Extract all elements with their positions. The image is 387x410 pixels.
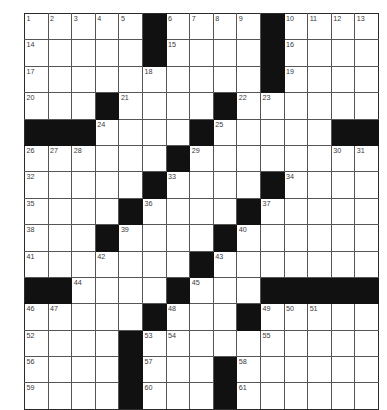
crossword-cell[interactable]: 59 <box>25 383 49 409</box>
crossword-cell[interactable] <box>331 172 355 198</box>
crossword-cell[interactable] <box>308 251 332 277</box>
crossword-cell[interactable] <box>95 277 119 303</box>
crossword-cell[interactable] <box>190 357 214 383</box>
crossword-cell[interactable] <box>48 93 72 119</box>
crossword-cell[interactable]: 33 <box>166 172 190 198</box>
crossword-cell[interactable] <box>308 40 332 66</box>
crossword-cell[interactable] <box>237 66 261 92</box>
crossword-cell[interactable] <box>355 225 379 251</box>
crossword-cell[interactable] <box>166 383 190 409</box>
crossword-cell[interactable] <box>166 119 190 145</box>
crossword-cell[interactable]: 2 <box>48 14 72 40</box>
crossword-cell[interactable]: 29 <box>190 145 214 171</box>
crossword-cell[interactable] <box>308 119 332 145</box>
crossword-cell[interactable] <box>355 304 379 330</box>
crossword-cell[interactable] <box>119 66 143 92</box>
crossword-cell[interactable] <box>284 119 308 145</box>
crossword-cell[interactable] <box>355 330 379 356</box>
crossword-cell[interactable]: 16 <box>284 40 308 66</box>
crossword-cell[interactable] <box>355 40 379 66</box>
crossword-cell[interactable] <box>213 304 237 330</box>
crossword-cell[interactable]: 54 <box>166 330 190 356</box>
crossword-cell[interactable]: 61 <box>237 383 261 409</box>
crossword-cell[interactable] <box>142 225 166 251</box>
crossword-cell[interactable]: 21 <box>119 93 143 119</box>
crossword-cell[interactable] <box>119 119 143 145</box>
crossword-cell[interactable] <box>308 66 332 92</box>
crossword-cell[interactable] <box>48 251 72 277</box>
crossword-cell[interactable]: 14 <box>25 40 49 66</box>
crossword-cell[interactable] <box>72 172 96 198</box>
crossword-cell[interactable] <box>119 172 143 198</box>
crossword-cell[interactable] <box>308 357 332 383</box>
crossword-cell[interactable]: 39 <box>119 225 143 251</box>
crossword-cell[interactable] <box>95 198 119 224</box>
crossword-cell[interactable] <box>72 383 96 409</box>
crossword-cell[interactable] <box>331 66 355 92</box>
crossword-cell[interactable]: 38 <box>25 225 49 251</box>
crossword-cell[interactable] <box>213 172 237 198</box>
crossword-cell[interactable] <box>260 119 284 145</box>
crossword-cell[interactable] <box>48 225 72 251</box>
crossword-cell[interactable] <box>284 251 308 277</box>
crossword-cell[interactable]: 31 <box>355 145 379 171</box>
crossword-cell[interactable] <box>284 383 308 409</box>
crossword-cell[interactable]: 34 <box>284 172 308 198</box>
crossword-cell[interactable]: 50 <box>284 304 308 330</box>
crossword-cell[interactable] <box>119 145 143 171</box>
crossword-cell[interactable]: 9 <box>237 14 261 40</box>
crossword-cell[interactable] <box>237 251 261 277</box>
crossword-cell[interactable]: 60 <box>142 383 166 409</box>
crossword-cell[interactable] <box>48 330 72 356</box>
crossword-cell[interactable] <box>119 251 143 277</box>
crossword-cell[interactable] <box>213 198 237 224</box>
crossword-cell[interactable]: 11 <box>308 14 332 40</box>
crossword-cell[interactable] <box>284 93 308 119</box>
crossword-cell[interactable]: 18 <box>142 66 166 92</box>
crossword-cell[interactable] <box>355 383 379 409</box>
crossword-cell[interactable]: 45 <box>190 277 214 303</box>
crossword-cell[interactable] <box>260 383 284 409</box>
crossword-cell[interactable] <box>190 330 214 356</box>
crossword-cell[interactable]: 41 <box>25 251 49 277</box>
crossword-cell[interactable] <box>48 357 72 383</box>
crossword-cell[interactable] <box>72 225 96 251</box>
crossword-cell[interactable] <box>190 40 214 66</box>
crossword-cell[interactable] <box>48 40 72 66</box>
crossword-cell[interactable] <box>331 40 355 66</box>
crossword-cell[interactable] <box>331 198 355 224</box>
crossword-cell[interactable] <box>308 93 332 119</box>
crossword-cell[interactable]: 55 <box>260 330 284 356</box>
crossword-cell[interactable] <box>237 172 261 198</box>
crossword-cell[interactable]: 15 <box>166 40 190 66</box>
crossword-cell[interactable] <box>119 277 143 303</box>
crossword-cell[interactable] <box>190 172 214 198</box>
crossword-cell[interactable]: 35 <box>25 198 49 224</box>
crossword-cell[interactable]: 26 <box>25 145 49 171</box>
crossword-cell[interactable]: 7 <box>190 14 214 40</box>
crossword-cell[interactable] <box>48 66 72 92</box>
crossword-cell[interactable] <box>142 251 166 277</box>
crossword-cell[interactable]: 46 <box>25 304 49 330</box>
crossword-cell[interactable]: 58 <box>237 357 261 383</box>
crossword-cell[interactable]: 6 <box>166 14 190 40</box>
crossword-cell[interactable] <box>72 251 96 277</box>
crossword-cell[interactable] <box>237 40 261 66</box>
crossword-cell[interactable] <box>95 383 119 409</box>
crossword-cell[interactable]: 27 <box>48 145 72 171</box>
crossword-cell[interactable] <box>260 145 284 171</box>
crossword-cell[interactable]: 10 <box>284 14 308 40</box>
crossword-cell[interactable] <box>72 93 96 119</box>
crossword-cell[interactable] <box>331 357 355 383</box>
crossword-cell[interactable] <box>72 198 96 224</box>
crossword-cell[interactable]: 24 <box>95 119 119 145</box>
crossword-cell[interactable] <box>72 304 96 330</box>
crossword-cell[interactable] <box>142 93 166 119</box>
crossword-cell[interactable] <box>213 277 237 303</box>
crossword-cell[interactable] <box>355 93 379 119</box>
crossword-cell[interactable] <box>213 66 237 92</box>
crossword-cell[interactable]: 5 <box>119 14 143 40</box>
crossword-cell[interactable] <box>331 330 355 356</box>
crossword-cell[interactable] <box>190 198 214 224</box>
crossword-cell[interactable] <box>72 330 96 356</box>
